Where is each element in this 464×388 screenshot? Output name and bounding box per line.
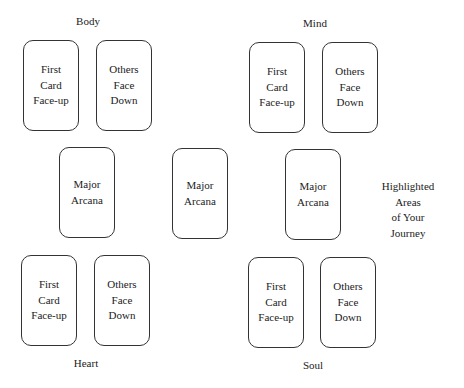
card-heart-first: First Card Face-up bbox=[21, 255, 77, 346]
card-text: Others Face Down bbox=[107, 277, 136, 324]
card-mind-first: First Card Face-up bbox=[249, 42, 305, 133]
card-text: Major Arcana bbox=[71, 177, 103, 208]
card-text: Others Face Down bbox=[109, 62, 138, 109]
card-heart-others: Others Face Down bbox=[94, 255, 150, 346]
card-major-arcana-left: Major Arcana bbox=[59, 147, 115, 238]
group-label-mind: Mind bbox=[303, 17, 327, 29]
group-label-soul: Soul bbox=[303, 359, 323, 371]
card-soul-others: Others Face Down bbox=[320, 257, 376, 348]
card-major-arcana-center: Major Arcana bbox=[172, 148, 228, 239]
card-text: Others Face Down bbox=[335, 64, 364, 111]
card-text: First Card Face-up bbox=[259, 64, 294, 111]
card-text: First Card Face-up bbox=[31, 277, 66, 324]
highlighted-areas-note: Highlighted Areas of Your Journey bbox=[380, 179, 436, 241]
card-text: First Card Face-up bbox=[33, 62, 68, 109]
card-text: Others Face Down bbox=[333, 279, 362, 326]
card-body-first: First Card Face-up bbox=[23, 40, 79, 131]
card-text: Major Arcana bbox=[184, 178, 216, 209]
card-text: Major Arcana bbox=[297, 179, 329, 210]
card-soul-first: First Card Face-up bbox=[248, 257, 304, 348]
card-body-others: Others Face Down bbox=[96, 40, 152, 131]
card-text: First Card Face-up bbox=[258, 279, 293, 326]
card-mind-others: Others Face Down bbox=[322, 42, 378, 133]
card-major-arcana-right: Major Arcana bbox=[285, 149, 341, 240]
group-label-heart: Heart bbox=[74, 357, 98, 369]
group-label-body: Body bbox=[76, 15, 100, 27]
